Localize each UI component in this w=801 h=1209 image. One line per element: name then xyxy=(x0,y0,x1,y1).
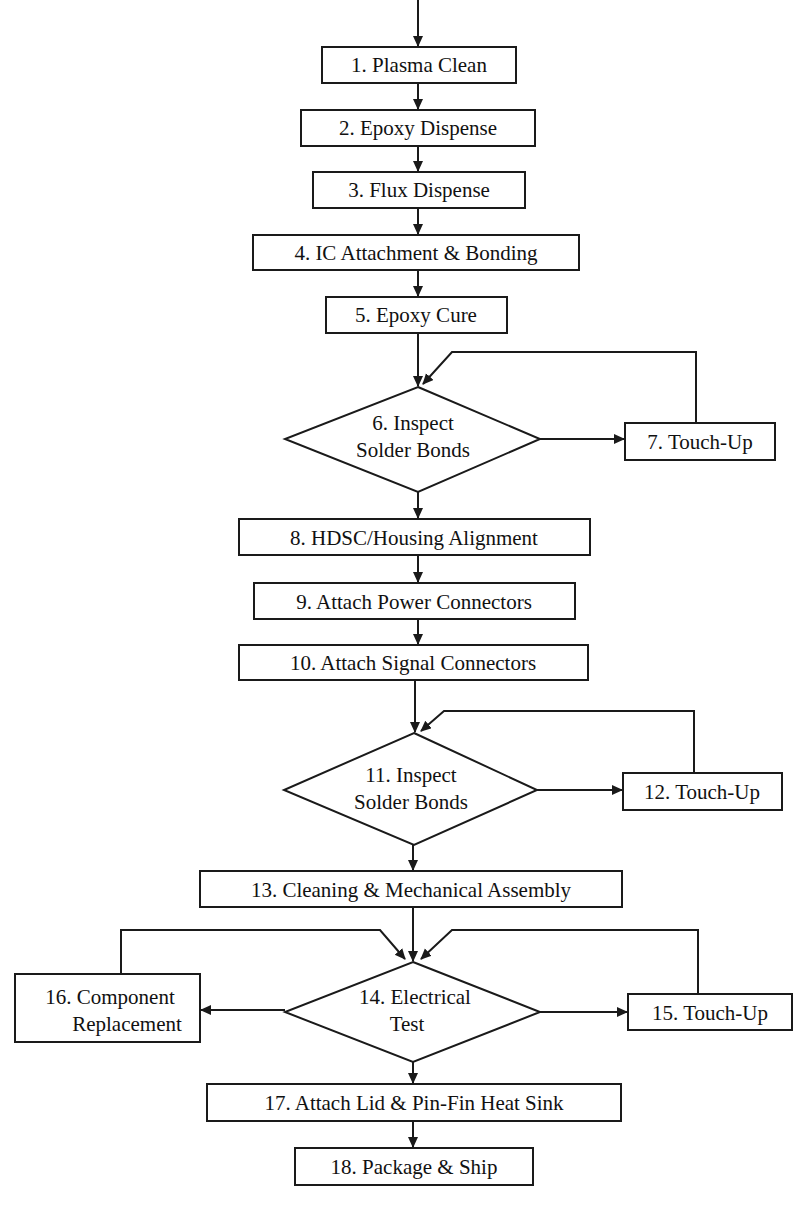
node-label: 15. Touch-Up xyxy=(652,1001,768,1025)
node-8-hdsc-housing-alignment: 8. HDSC/Housing Alignment xyxy=(239,519,590,555)
node-11-inspect-solder-bonds-decision: 11. Inspect Solder Bonds xyxy=(284,733,537,845)
node-label-line-2: Test xyxy=(390,1012,425,1036)
node-label: 2. Epoxy Dispense xyxy=(339,116,497,140)
node-6-inspect-solder-bonds-decision: 6. Inspect Solder Bonds xyxy=(285,387,540,492)
node-10-attach-signal-connectors: 10. Attach Signal Connectors xyxy=(239,645,588,680)
node-17-attach-lid-heat-sink: 17. Attach Lid & Pin-Fin Heat Sink xyxy=(207,1084,621,1121)
node-3-flux-dispense: 3. Flux Dispense xyxy=(313,172,525,208)
node-14-electrical-test-decision: 14. Electrical Test xyxy=(285,962,540,1062)
node-label: 5. Epoxy Cure xyxy=(355,303,477,327)
node-9-attach-power-connectors: 9. Attach Power Connectors xyxy=(254,583,575,619)
node-label: 12. Touch-Up xyxy=(644,780,760,804)
node-label: 17. Attach Lid & Pin-Fin Heat Sink xyxy=(264,1091,564,1115)
node-label-line-1: 16. Component xyxy=(45,985,175,1009)
node-label: 4. IC Attachment & Bonding xyxy=(294,241,538,265)
node-label: 10. Attach Signal Connectors xyxy=(290,651,536,675)
node-label-line-2: Solder Bonds xyxy=(356,438,470,462)
node-13-cleaning-mechanical-assembly: 13. Cleaning & Mechanical Assembly xyxy=(200,871,622,907)
node-label: 8. HDSC/Housing Alignment xyxy=(290,526,538,550)
node-label: 1. Plasma Clean xyxy=(351,53,487,77)
node-label-line-1: 14. Electrical xyxy=(359,985,471,1009)
node-1-plasma-clean: 1. Plasma Clean xyxy=(322,47,516,83)
node-7-touch-up: 7. Touch-Up xyxy=(625,423,775,460)
node-label-line-2: Solder Bonds xyxy=(354,790,468,814)
node-label: 13. Cleaning & Mechanical Assembly xyxy=(251,878,572,902)
node-label: 7. Touch-Up xyxy=(647,430,752,454)
node-label: 3. Flux Dispense xyxy=(348,178,490,202)
node-label: 18. Package & Ship xyxy=(331,1155,498,1179)
node-label-line-2: Replacement xyxy=(72,1012,182,1036)
assembly-process-flowchart: 1. Plasma Clean 2. Epoxy Dispense 3. Flu… xyxy=(0,0,801,1209)
node-label-line-1: 6. Inspect xyxy=(372,411,454,435)
node-12-touch-up: 12. Touch-Up xyxy=(623,773,782,810)
node-15-touch-up: 15. Touch-Up xyxy=(628,994,792,1030)
node-16-component-replacement: 16. Component Replacement xyxy=(15,974,200,1042)
node-2-epoxy-dispense: 2. Epoxy Dispense xyxy=(301,110,535,146)
node-4-ic-attachment-bonding: 4. IC Attachment & Bonding xyxy=(253,235,579,270)
node-18-package-ship: 18. Package & Ship xyxy=(295,1148,533,1185)
node-5-epoxy-cure: 5. Epoxy Cure xyxy=(326,297,507,333)
node-label: 9. Attach Power Connectors xyxy=(296,590,532,614)
arrow-16-to-14 xyxy=(121,930,405,974)
node-label-line-1: 11. Inspect xyxy=(365,763,457,787)
